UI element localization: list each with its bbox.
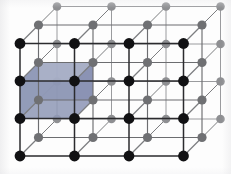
lattice-node-back — [88, 20, 97, 29]
lattice-node-back — [34, 133, 43, 142]
lattice-node-back — [88, 133, 97, 142]
lattice-node-front — [69, 113, 80, 124]
lattice-node-front — [124, 76, 135, 87]
lattice-node-front — [15, 38, 26, 49]
lattice-node-front — [69, 76, 80, 87]
lattice-node-front — [178, 151, 189, 162]
lattice-node-back — [143, 133, 152, 142]
lattice-node-back — [34, 58, 43, 67]
lattice-node-front — [124, 151, 135, 162]
unit-cell-highlight — [20, 63, 93, 119]
lattice-node-back — [197, 95, 206, 104]
lattice-node-back — [88, 95, 97, 104]
lattice-node-back — [197, 133, 206, 142]
lattice-node-back — [216, 115, 225, 124]
lattice-node-back — [216, 40, 225, 49]
lattice-node-front — [15, 113, 26, 124]
lattice-node-front — [69, 38, 80, 49]
lattice-node-back — [216, 2, 225, 11]
lattice-node-front — [15, 76, 26, 87]
lattice-node-back — [197, 20, 206, 29]
lattice-node-back — [197, 58, 206, 67]
lattice-node-back — [34, 20, 43, 29]
lattice-node-back — [143, 20, 152, 29]
lattice-node-front — [15, 151, 26, 162]
lattice-node-back — [162, 2, 171, 11]
lattice-node-back — [216, 77, 225, 86]
lattice-node-front — [178, 38, 189, 49]
lattice-node-front — [124, 38, 135, 49]
lattice-node-back — [88, 58, 97, 67]
lattice-node-front — [69, 151, 80, 162]
lattice-node-back — [143, 58, 152, 67]
lattice-node-front — [178, 76, 189, 87]
lattice-node-back — [143, 95, 152, 104]
lattice-node-back — [53, 2, 62, 11]
lattice-node-front — [178, 113, 189, 124]
lattice-node-front — [124, 113, 135, 124]
lattice-node-back — [34, 95, 43, 104]
lattice-figure — [0, 0, 231, 174]
cubic-lattice-diagram — [0, 0, 231, 174]
lattice-node-back — [107, 2, 116, 11]
